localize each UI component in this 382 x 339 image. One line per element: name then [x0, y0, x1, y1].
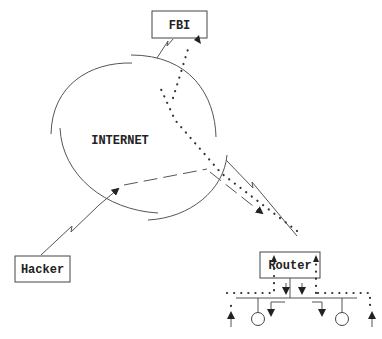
host-1[interactable]	[252, 313, 265, 326]
fbi-link	[157, 39, 173, 58]
hacker-link	[41, 205, 99, 255]
host-2[interactable]	[336, 313, 349, 326]
fbi-node[interactable]: FBI	[152, 11, 207, 38]
hacker-node[interactable]: Hacker	[15, 256, 70, 282]
router-node[interactable]: Router	[260, 252, 320, 278]
router-link	[226, 160, 297, 236]
network-diagram: INTERNET FBI Hacker Router	[0, 0, 382, 339]
trace-path	[160, 87, 297, 231]
hacker-label: Hacker	[21, 263, 64, 277]
internet-label: INTERNET	[91, 134, 149, 148]
fbi-label: FBI	[169, 19, 191, 33]
attack-path-2	[210, 172, 262, 213]
attack-path-1	[124, 169, 207, 185]
